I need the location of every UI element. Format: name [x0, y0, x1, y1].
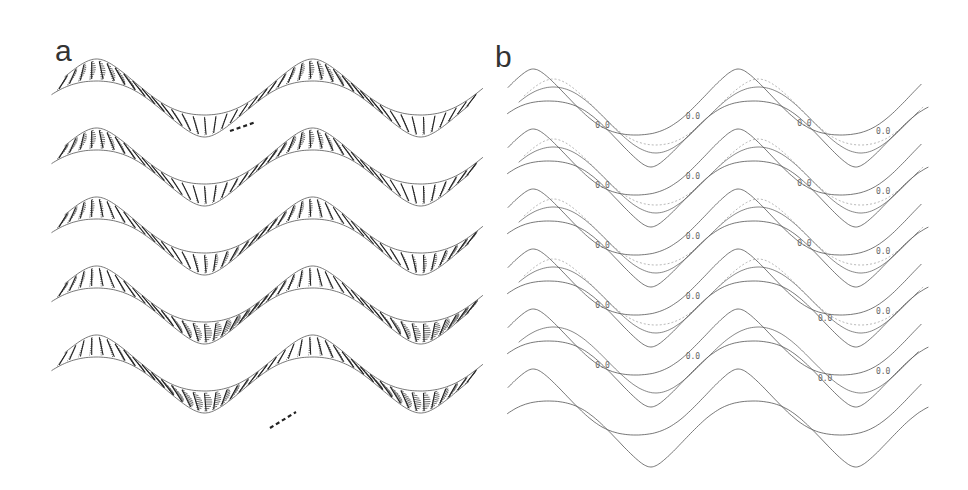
contour-label: 0.0: [818, 374, 833, 383]
panel-a-channel: [52, 335, 483, 413]
contour-label: 0.0: [595, 121, 610, 130]
contour-label: 0.0: [876, 367, 891, 376]
figure-canvas: 0.00.00.00.00.00.00.00.00.00.00.00.00.00…: [0, 0, 968, 490]
panel-b-contours: 0.00.00.00.00.00.00.00.00.00.00.00.00.00…: [507, 69, 928, 467]
contour-label: 0.0: [595, 181, 610, 190]
panel-b-channel: 0.00.00.00.0: [507, 309, 928, 407]
contour-label: 0.0: [686, 292, 701, 301]
panel-a-channel: [52, 266, 483, 344]
contour-label: 0.0: [686, 112, 701, 121]
contour-label: 0.0: [595, 301, 610, 310]
dashed-marker: [230, 122, 256, 131]
contour-label: 0.0: [876, 247, 891, 256]
dashed-marker: [270, 412, 296, 428]
panel-a-velocity-profiles: [52, 59, 483, 428]
panel-a-channel: [52, 197, 483, 275]
panel-b-channel: 0.00.00.00.0: [507, 129, 928, 227]
panel-b-channel: [507, 369, 928, 467]
contour-label: 0.0: [797, 119, 812, 128]
contour-label: 0.0: [797, 239, 812, 248]
panel-b-channel: 0.00.00.00.0: [507, 249, 928, 347]
panel-a-channel: [52, 128, 483, 206]
panel-b-channel: 0.00.00.00.0: [507, 69, 928, 167]
panel-b-channel: 0.00.00.00.0: [507, 189, 928, 287]
contour-label: 0.0: [876, 127, 891, 136]
contour-label: 0.0: [595, 361, 610, 370]
contour-label: 0.0: [797, 179, 812, 188]
contour-label: 0.0: [686, 172, 701, 181]
contour-label: 0.0: [876, 307, 891, 316]
contour-label: 0.0: [686, 352, 701, 361]
contour-label: 0.0: [876, 187, 891, 196]
panel-a-channel: [52, 59, 483, 137]
contour-label: 0.0: [818, 314, 833, 323]
contour-label: 0.0: [595, 241, 610, 250]
contour-label: 0.0: [686, 232, 701, 241]
